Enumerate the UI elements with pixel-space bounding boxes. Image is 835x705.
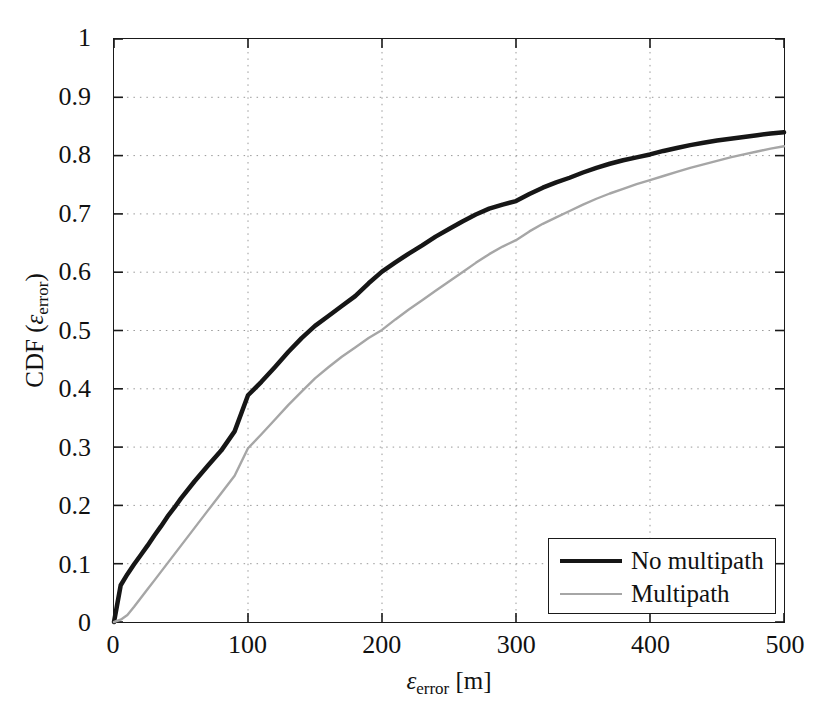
y-axis-title-suffix: ) bbox=[21, 273, 48, 281]
legend-line-swatch-multipath bbox=[560, 593, 622, 595]
y-axis-title-symbol: ε bbox=[21, 315, 48, 325]
chart-legend: No multipath Multipath bbox=[548, 538, 776, 614]
x-axis-title: εerror [m] bbox=[113, 668, 785, 697]
legend-item-no-multipath: No multipath bbox=[549, 544, 775, 577]
y-tick-label: 1 bbox=[78, 25, 103, 51]
x-axis-title-unit: [m] bbox=[449, 667, 491, 694]
curve-layer bbox=[114, 39, 784, 622]
x-axis-title-subscript: error bbox=[416, 679, 449, 698]
x-tick-label: 100 bbox=[228, 632, 267, 658]
x-tick-label: 0 bbox=[107, 632, 120, 658]
y-axis-title-prefix: CDF ( bbox=[21, 325, 48, 388]
legend-item-multipath: Multipath bbox=[549, 577, 775, 610]
x-tick-label: 300 bbox=[497, 632, 536, 658]
x-tick-label: 400 bbox=[631, 632, 670, 658]
y-tick-label: 0 bbox=[78, 610, 103, 636]
legend-label-no-multipath: No multipath bbox=[631, 548, 764, 573]
x-tick-label: 500 bbox=[766, 632, 805, 658]
cdf-chart-figure: 00.10.20.30.40.50.60.70.80.91 0100200300… bbox=[0, 0, 835, 705]
x-axis-tick-labels: 0100200300400500 bbox=[113, 632, 785, 666]
x-axis-title-symbol: ε bbox=[406, 667, 416, 694]
plot-area bbox=[113, 38, 785, 623]
y-axis-title-subscript: error bbox=[33, 282, 52, 315]
legend-label-multipath: Multipath bbox=[631, 581, 730, 606]
y-axis-title: CDF (εerror) bbox=[22, 38, 66, 623]
legend-line-swatch-no-multipath bbox=[560, 559, 622, 563]
x-tick-label: 200 bbox=[362, 632, 401, 658]
